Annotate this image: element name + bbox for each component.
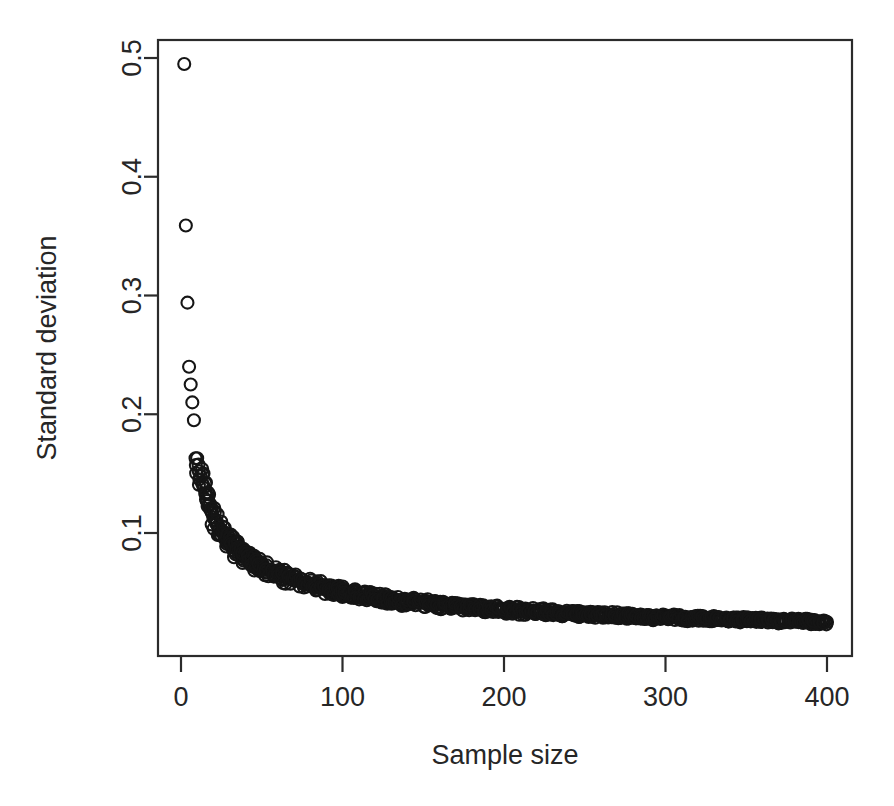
x-tick-label: 100	[320, 682, 365, 712]
x-tick-label: 300	[643, 682, 688, 712]
x-tick-label: 400	[804, 682, 849, 712]
scatter-plot-figure: 0.10.20.30.40.5 0100200300400 Sample siz…	[0, 0, 894, 806]
y-axis-title: Standard deviation	[32, 235, 62, 460]
y-tick-label: 0.2	[117, 395, 147, 433]
y-tick-label: 0.3	[117, 277, 147, 315]
plot-canvas: 0.10.20.30.40.5 0100200300400 Sample siz…	[0, 0, 894, 806]
y-tick-label: 0.4	[117, 158, 147, 196]
x-axis-title: Sample size	[431, 740, 578, 770]
x-tick-label: 200	[481, 682, 526, 712]
y-tick-label: 0.5	[117, 39, 147, 77]
y-tick-label: 0.1	[117, 514, 147, 552]
x-tick-label: 0	[173, 682, 188, 712]
